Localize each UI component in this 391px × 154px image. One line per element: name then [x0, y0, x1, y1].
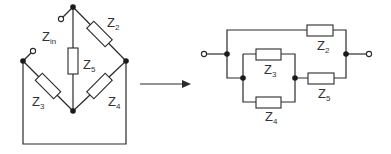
node-parallel-right: [292, 75, 298, 81]
node-in: [224, 51, 230, 57]
node-bottom: [70, 108, 76, 114]
node-left: [20, 58, 26, 64]
label-z3: Z3: [32, 94, 45, 111]
label-z2: Z2: [107, 15, 120, 32]
label-z5: Z5: [318, 86, 331, 103]
node-top: [70, 4, 76, 10]
resistor-z4: [256, 97, 281, 108]
resistor-z5: [68, 48, 78, 74]
resistor-z2: [307, 25, 333, 36]
arrow-head-icon: [182, 80, 191, 88]
terminal-left: [30, 48, 35, 53]
node-parallel-left: [240, 75, 246, 81]
terminal-out: [366, 51, 371, 56]
label-z5: Z5: [83, 57, 96, 74]
label-z2: Z2: [317, 38, 330, 55]
resistor-z3: [256, 49, 281, 60]
equivalent-circuit: Z2 Z3 Z5 Z4: [201, 25, 371, 126]
label-z4: Z4: [108, 94, 121, 111]
node-right: [123, 58, 129, 64]
resistor-z5: [308, 73, 334, 84]
circuit-transformation-diagram: Zin Z2 Z5 Z3 Z4 Z2 Z3: [0, 0, 391, 154]
label-z4: Z4: [265, 109, 278, 126]
terminal-in: [201, 51, 206, 56]
transformation-arrow: [140, 80, 191, 88]
node-out: [343, 51, 349, 57]
terminal-top: [58, 16, 63, 21]
bridge-circuit: Zin Z2 Z5 Z3 Z4: [20, 4, 129, 144]
label-zin: Zin: [42, 29, 56, 46]
diagram-canvas: Zin Z2 Z5 Z3 Z4 Z2 Z3: [0, 0, 391, 154]
label-z3: Z3: [264, 62, 277, 79]
